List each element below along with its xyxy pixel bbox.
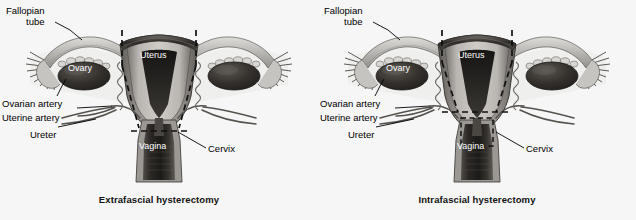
panel-intrafascial: Fallopian tube Ovary Uterus Ovarian arte… <box>318 0 636 220</box>
label-fallopian-tube-left-panel: Fallopian tube <box>6 5 45 27</box>
label-ureter-right-panel: Ureter <box>348 129 374 140</box>
label-vagina-right-panel: Vagina <box>457 141 484 152</box>
label-ureter-left-panel: Ureter <box>30 129 56 140</box>
label-ovary-right-panel: Ovary <box>386 63 410 74</box>
label-cervix-left-panel: Cervix <box>208 143 235 154</box>
label-uterus-left-panel: Uterus <box>140 50 167 61</box>
label-cervix-right-panel: Cervix <box>526 143 553 154</box>
cervical-canal <box>154 118 164 136</box>
label-vagina-left-panel: Vagina <box>139 141 166 152</box>
label-uterine-artery-left-panel: Uterine artery <box>2 112 60 123</box>
caption-extrafascial: Extrafascial hysterectomy <box>0 194 318 205</box>
label-ovarian-artery-right-panel: Ovarian artery <box>320 98 380 109</box>
label-fallopian-tube-right-panel: Fallopian tube <box>324 5 363 27</box>
hysterectomy-figure: Fallopian tube Ovary Uterus Ovarian arte… <box>0 0 636 220</box>
label-uterine-artery-right-panel: Uterine artery <box>320 112 378 123</box>
panel-extrafascial: Fallopian tube Ovary Uterus Ovarian arte… <box>0 0 318 220</box>
label-ovarian-artery-left-panel: Ovarian artery <box>2 98 62 109</box>
label-uterus-right-panel: Uterus <box>458 50 485 61</box>
cervical-canal <box>472 118 482 136</box>
label-ovary-left-panel: Ovary <box>68 63 92 74</box>
caption-intrafascial: Intrafascial hysterectomy <box>318 194 636 205</box>
